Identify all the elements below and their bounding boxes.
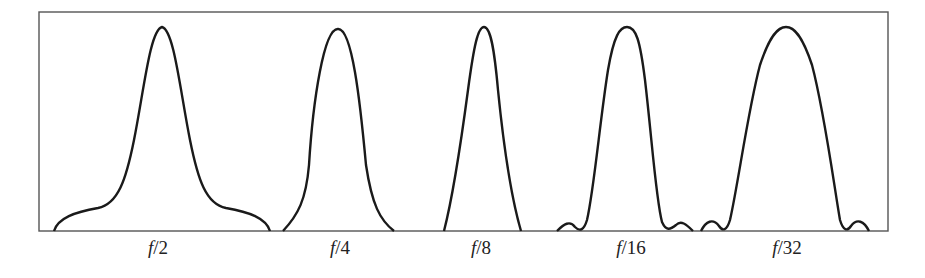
label-f32-value: /32 — [778, 237, 802, 258]
curve-f16-f32 — [557, 27, 869, 231]
label-f4: f/4 — [330, 237, 350, 259]
label-f8-value: /8 — [476, 237, 491, 258]
label-f4-value: /4 — [335, 237, 350, 258]
curve-f8 — [444, 27, 521, 231]
label-f16: f/16 — [616, 237, 646, 259]
label-f8: f/8 — [471, 237, 491, 259]
curve-f4 — [283, 29, 394, 231]
label-f2: f/2 — [148, 237, 168, 259]
label-f2-value: /2 — [153, 237, 168, 258]
curve-f2 — [54, 27, 270, 231]
label-f32: f/32 — [772, 237, 802, 259]
label-f16-value: /16 — [622, 237, 646, 258]
